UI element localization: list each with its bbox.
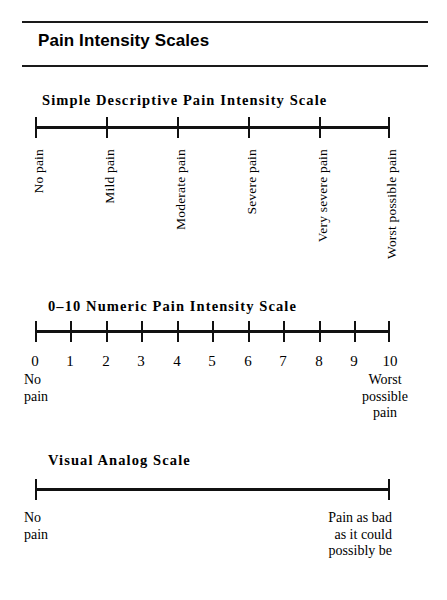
tick-mark [106, 321, 108, 342]
tick-label-severe-pain: Severe pain [244, 149, 260, 215]
anchor-label-no-pain: No pain [24, 372, 48, 405]
tick-label-moderate-pain: Moderate pain [173, 149, 189, 230]
scale-title-numeric: 0–10 Numeric Pain Intensity Scale [48, 298, 297, 315]
scale-title-simple-descriptive: Simple Descriptive Pain Intensity Scale [42, 92, 327, 109]
numeral-label: 7 [270, 353, 296, 370]
anchor-label-pain-as-bad: Pain as bad as it could possibly be [280, 510, 392, 560]
tick-mark [354, 321, 356, 342]
tick-mark [141, 321, 143, 342]
tick-mark [35, 117, 37, 138]
numeral-label: 3 [128, 353, 154, 370]
tick-label-mild-pain: Mild pain [102, 149, 118, 204]
axis-line-visual-analog [35, 488, 390, 491]
tick-mark [248, 117, 250, 138]
tick-mark [35, 321, 37, 342]
numeral-label: 5 [199, 353, 225, 370]
anchor-label-worst-possible-pain: Worst possible pain [340, 372, 430, 422]
tick-mark [177, 117, 179, 138]
tick-mark [212, 321, 214, 342]
scale-title-visual-analog: Visual Analog Scale [48, 452, 191, 469]
tick-mark [319, 117, 321, 138]
header-rule-top [22, 21, 428, 23]
tick-mark [106, 117, 108, 138]
tick-label-no-pain: No pain [31, 149, 47, 194]
tick-mark [35, 479, 37, 500]
tick-mark [248, 321, 250, 342]
tick-mark [70, 321, 72, 342]
numeral-label: 0 [22, 353, 48, 370]
tick-label-very-severe-pain: Very severe pain [315, 149, 331, 242]
tick-mark [388, 479, 390, 500]
numeral-label: 6 [235, 353, 261, 370]
tick-mark [388, 117, 390, 138]
header-rule-bottom [22, 65, 428, 67]
numeral-label: 1 [57, 353, 83, 370]
numeral-label: 8 [306, 353, 332, 370]
page-title: Pain Intensity Scales [38, 31, 209, 51]
tick-mark [283, 321, 285, 342]
axis-line-simple-descriptive [35, 126, 390, 129]
numeral-label: 10 [377, 353, 403, 370]
numeral-label: 2 [93, 353, 119, 370]
tick-label-worst-possible-pain: Worst possible pain [384, 149, 400, 259]
numeral-label: 4 [164, 353, 190, 370]
tick-mark [319, 321, 321, 342]
anchor-label-no-pain: No pain [24, 510, 48, 543]
tick-mark [177, 321, 179, 342]
tick-mark [388, 321, 390, 342]
axis-line-numeric [35, 330, 390, 333]
numeral-label: 9 [341, 353, 367, 370]
